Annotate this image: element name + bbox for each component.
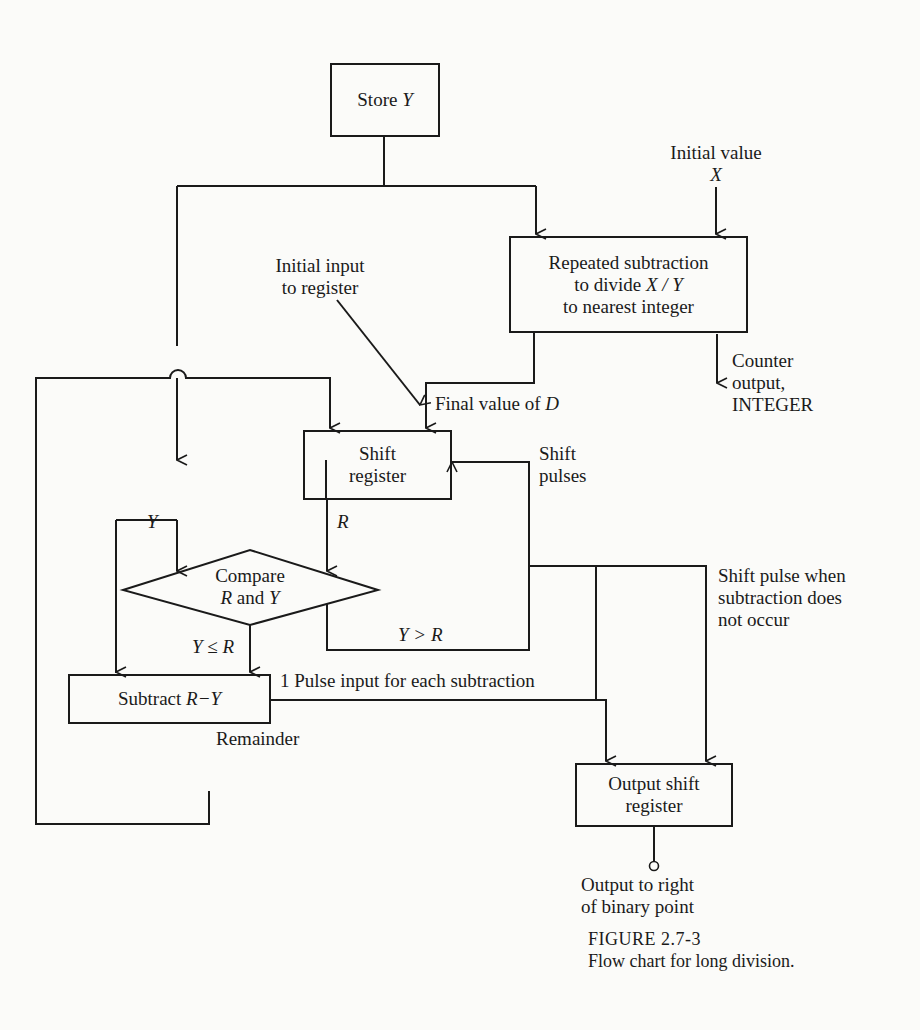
initial-input-label: Initial input to register [265, 255, 375, 299]
final-value-label: Final value of D [435, 393, 559, 415]
compare-label: Compare R and Y [180, 565, 320, 609]
store-y-box: Store Y [330, 63, 440, 137]
shift-pulses-label: Shift pulses [539, 443, 587, 487]
counter-output-label: Counter output, INTEGER [732, 350, 813, 416]
shift-register-box: Shift register [303, 430, 452, 500]
repeated-subtraction-box: Repeated subtraction to divide X / Y to … [509, 236, 748, 333]
wire-r-to-compare [0, 0, 920, 1030]
subtract-box: Subtract R−Y [68, 674, 271, 724]
figure-title: Flow chart for long division. [588, 950, 794, 972]
r-branch-label: R [337, 511, 349, 533]
y-gt-r-label: Y > R [398, 624, 443, 646]
figure-number: FIGURE 2.7-3 [588, 928, 794, 950]
initial-value-label: Initial value X [670, 142, 762, 186]
shift-pulse-when-label: Shift pulse when subtraction does not oc… [718, 565, 846, 631]
output-shift-register-box: Output shift register [575, 763, 733, 827]
remainder-label: Remainder [216, 728, 299, 750]
y-le-r-label: Y ≤ R [192, 636, 234, 658]
output-right-label: Output to right of binary point [581, 874, 694, 918]
figure-caption: FIGURE 2.7-3 Flow chart for long divisio… [588, 928, 794, 972]
pulse-input-label: 1 Pulse input for each subtraction [280, 670, 535, 692]
y-branch-label: Y [147, 511, 158, 533]
